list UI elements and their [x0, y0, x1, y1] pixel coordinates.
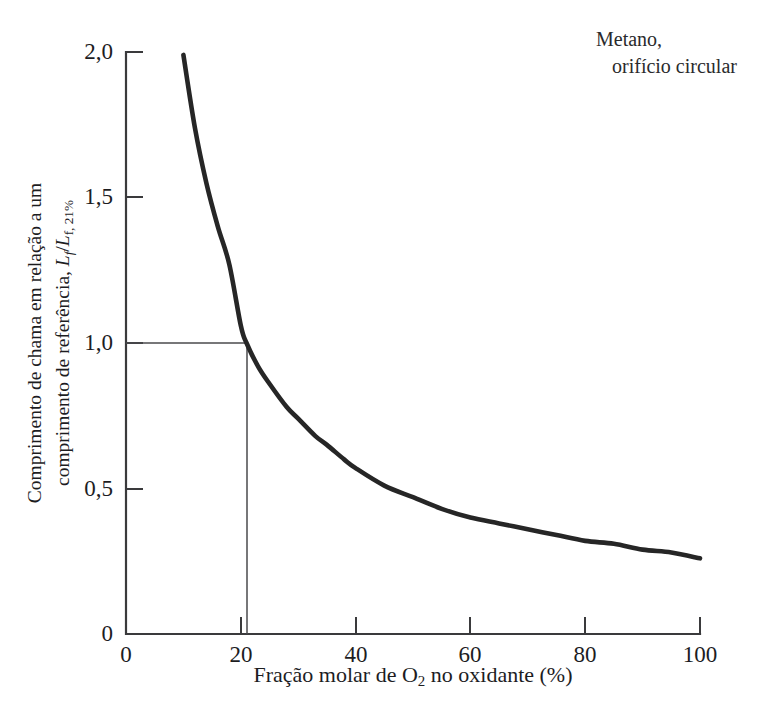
x-tick-label-100: 100 [683, 642, 718, 668]
y-tick-label-0_5: 0,5 [84, 476, 113, 502]
y-tick-label-1_5: 1,5 [84, 184, 113, 210]
y-axis-title-line-2-prefix: comprimento de referência, [52, 266, 73, 486]
y-tick-label-1_0: 1,0 [84, 330, 113, 356]
y-axis-symbol-slash: / [52, 246, 73, 251]
x-tick-label-0: 0 [120, 642, 132, 668]
x-axis-ticks [126, 617, 700, 634]
x-axis-title: Fração molar de O2 no oxidante (%) [253, 662, 572, 690]
y-axis-ticks [126, 52, 143, 489]
y-axis-title: Comprimento de chama em relação a um com… [21, 183, 78, 504]
x-axis-title-text: Fração molar de O [253, 662, 417, 687]
figure-root: Metano, orifício circular 2,0 1,5 [0, 0, 770, 716]
y-axis-symbol-denominator-subscript: f, 21% [61, 200, 76, 235]
x-tick-label-20: 20 [230, 642, 253, 668]
y-axis-symbol-numerator-subscript: f [61, 252, 76, 256]
data-curve [183, 55, 700, 558]
y-axis-title-line-1: Comprimento de chama em relação a um [21, 183, 49, 504]
y-tick-label-2_0: 2,0 [84, 39, 113, 65]
x-axis-title-tail: no oxidante (%) [425, 662, 572, 687]
y-axis-title-line-2: comprimento de referência, Lf/Lf, 21% [49, 183, 79, 504]
plot-canvas [0, 0, 770, 716]
y-tick-label-0: 0 [102, 621, 114, 647]
y-axis-symbol-numerator: L [52, 255, 73, 266]
x-axis-title-subscript: 2 [418, 673, 425, 689]
y-axis-symbol-denominator: L [52, 235, 73, 246]
x-tick-label-80: 80 [574, 642, 597, 668]
